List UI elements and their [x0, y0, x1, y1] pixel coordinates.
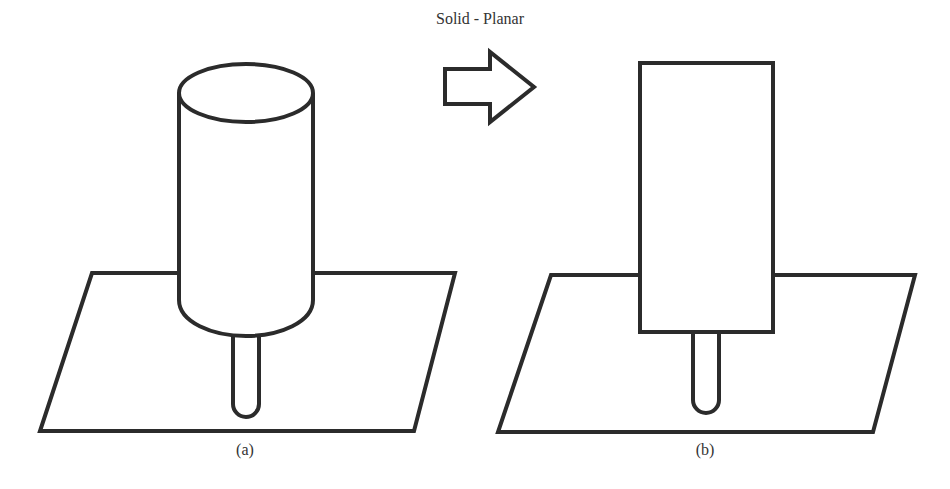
diagram-canvas [0, 0, 950, 489]
panel-label-a: (a) [215, 441, 275, 459]
right-arrow-icon [445, 52, 534, 122]
cylinder-top [179, 64, 313, 122]
planar-rectangle [640, 63, 773, 332]
panel-a [40, 64, 455, 431]
panel-label-b: (b) [675, 441, 735, 459]
stem-a [233, 330, 259, 417]
cylinder-body [179, 93, 313, 336]
diagram-title: Solid - Planar [380, 10, 580, 28]
stem-b [693, 332, 719, 413]
panel-b [498, 63, 915, 432]
